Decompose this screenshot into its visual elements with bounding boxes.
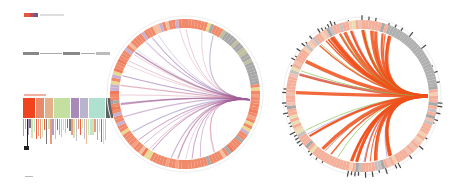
- ring-segment[interactable]: [185, 160, 188, 169]
- tick-mark: [334, 22, 335, 25]
- tick-mark: [437, 106, 442, 107]
- tick-mark: [308, 151, 309, 152]
- ring-segment[interactable]: [286, 93, 295, 96]
- ring-segment[interactable]: [429, 93, 438, 96]
- ring-segment[interactable]: [251, 91, 260, 94]
- tick-mark: [376, 18, 377, 21]
- tick-mark: [425, 138, 427, 139]
- ring-segment[interactable]: [359, 20, 362, 29]
- tick-mark: [283, 113, 288, 114]
- tick-mark: [316, 157, 318, 159]
- tick-mark: [389, 23, 390, 25]
- tick-mark: [289, 123, 291, 124]
- tick-mark: [322, 161, 323, 163]
- chord-link[interactable]: [137, 50, 250, 100]
- ring-segment[interactable]: [429, 96, 438, 99]
- tick-mark: [295, 56, 297, 57]
- tick-mark: [395, 25, 396, 28]
- ring-segment[interactable]: [362, 20, 365, 29]
- tick-mark: [294, 135, 297, 137]
- tick-mark: [437, 82, 440, 83]
- chord-link[interactable]: [180, 29, 250, 99]
- ring-segment[interactable]: [182, 19, 185, 28]
- tick-mark: [436, 113, 440, 114]
- ring-segment[interactable]: [286, 96, 295, 99]
- tick-mark: [401, 28, 403, 31]
- chord-link[interactable]: [146, 42, 250, 99]
- chord-link[interactable]: [121, 85, 250, 99]
- tick-mark: [372, 171, 373, 177]
- tick-mark: [325, 27, 326, 29]
- chord-link[interactable]: [186, 99, 250, 159]
- chord-diagrams: [0, 0, 457, 187]
- tick-mark: [347, 171, 348, 177]
- chord-diagram-1: [107, 16, 263, 172]
- chord-link[interactable]: [135, 52, 250, 99]
- tick-mark: [306, 42, 307, 43]
- ring-segment[interactable]: [110, 91, 119, 94]
- tick-mark: [291, 66, 292, 67]
- ring-segment[interactable]: [362, 163, 365, 172]
- chord-link[interactable]: [132, 99, 249, 132]
- chord-link[interactable]: [135, 52, 249, 100]
- tick-mark: [310, 153, 312, 155]
- ring-segment[interactable]: [185, 19, 188, 28]
- tick-mark: [433, 123, 434, 124]
- tick-mark: [351, 171, 352, 175]
- tick-mark: [321, 28, 323, 31]
- tick-mark: [290, 126, 292, 127]
- tick-mark: [379, 170, 380, 173]
- ring-segment[interactable]: [251, 94, 260, 97]
- ring-segment[interactable]: [110, 94, 119, 97]
- ring-segment[interactable]: [359, 163, 362, 172]
- chord-diagram-2: [282, 15, 443, 178]
- ring-segment[interactable]: [182, 160, 185, 169]
